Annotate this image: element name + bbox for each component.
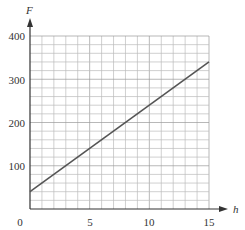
y-axis-label: F bbox=[25, 4, 33, 16]
y-tick-200: 200 bbox=[9, 117, 26, 129]
data-line bbox=[30, 62, 209, 192]
x-axis-arrow-icon bbox=[219, 206, 228, 212]
y-tick-300: 300 bbox=[9, 74, 26, 86]
x-tick-10: 10 bbox=[144, 216, 156, 228]
grid bbox=[30, 36, 209, 209]
x-tick-15: 15 bbox=[204, 216, 216, 228]
y-tick-100: 100 bbox=[9, 160, 26, 172]
y-axis-arrow-icon bbox=[27, 18, 33, 27]
y-tick-400: 400 bbox=[9, 30, 26, 42]
origin-label: 0 bbox=[17, 216, 23, 228]
chart: F h 0 5 10 15 100 200 300 400 bbox=[0, 0, 245, 230]
x-tick-5: 5 bbox=[87, 216, 93, 228]
x-axis-label: h bbox=[233, 203, 239, 215]
